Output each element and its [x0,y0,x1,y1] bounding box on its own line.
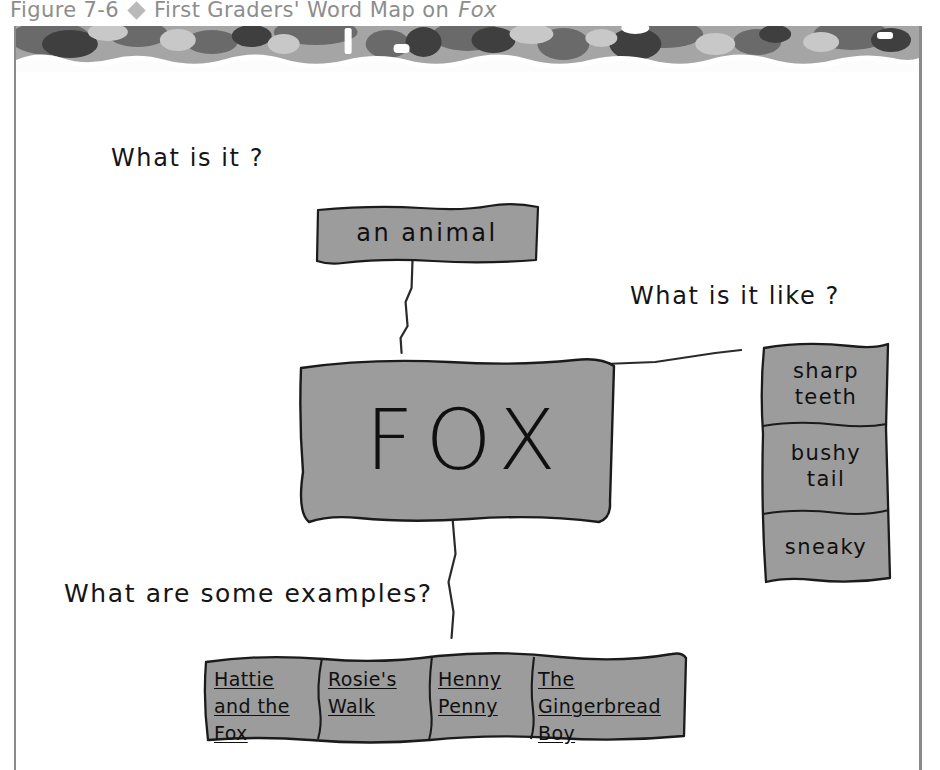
word-map-diagram: What is it ? What is it like ? What are … [16,26,919,770]
example-item-3-line-1: Gingerbread [538,693,661,720]
attribute-item-2: sneaky [756,514,896,580]
example-item-0-line-1: and the [214,693,290,720]
node-center-fox: FOX [289,352,620,530]
figure-title: First Graders' Word Map on [154,0,449,22]
page-frame: What is it ? What is it like ? What are … [14,26,922,770]
example-item-2: Henny Penny [438,658,538,744]
example-item-2-line-1: Penny [438,693,498,720]
node-examples-row: Hattie and the Fox Rosie's Walk Henny Pe… [200,648,690,744]
figure-title-italic: Fox [458,0,497,22]
node-attribute-column: sharp teeth bushy tail sneaky [756,338,896,586]
connector-center-to-definition [401,259,413,353]
connector-center-to-examples [449,518,456,638]
diamond-bullet-icon [127,1,145,19]
node-center-label: FOX [289,352,632,530]
prompt-what-is-it-like: What is it like ? [630,282,840,310]
attribute-item-0: sharp teeth [756,344,896,424]
figure-caption: Figure 7-6 First Graders' Word Map on Fo… [10,0,497,24]
example-item-1-line-0: Rosie's [328,666,397,693]
example-item-0-line-2: Fox [214,720,248,747]
example-item-3-line-0: The [538,666,575,693]
example-item-2-line-0: Henny [438,666,501,693]
figure-number: Figure 7-6 [10,0,119,22]
node-definition-label: an animal [313,202,541,266]
example-item-1: Rosie's Walk [328,658,428,744]
example-item-3: The Gingerbread Boy [538,658,688,744]
node-definition-an-animal: an animal [313,202,541,266]
example-item-0-line-0: Hattie [214,666,274,693]
prompt-what-is-it: What is it ? [111,144,264,172]
example-item-1-line-1: Walk [328,693,375,720]
example-item-3-line-2: Boy [538,720,575,747]
attribute-item-1: bushy tail [756,426,896,506]
example-item-0: Hattie and the Fox [214,658,324,744]
prompt-what-are-some-examples: What are some examples? [64,579,433,608]
